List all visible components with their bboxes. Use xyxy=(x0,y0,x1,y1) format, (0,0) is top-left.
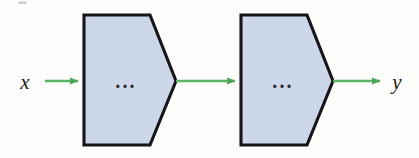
input-variable-label: x xyxy=(19,70,30,94)
figure-container: ... ... x y xyxy=(0,0,419,158)
scan-artifact-speck xyxy=(18,2,27,5)
output-variable-label: y xyxy=(390,70,402,94)
flow-diagram: ... ... x y xyxy=(0,0,419,158)
block-2[interactable]: ... xyxy=(241,15,333,145)
block-1-ellipsis: ... xyxy=(115,70,137,92)
block-1[interactable]: ... xyxy=(84,15,176,145)
block-2-ellipsis: ... xyxy=(272,70,294,92)
